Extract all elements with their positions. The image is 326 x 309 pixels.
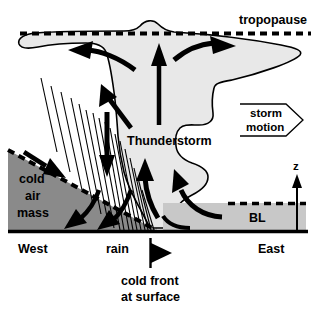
z-axis-label: z [293, 160, 299, 172]
cold-front-caption-line2: at surface [121, 290, 180, 304]
cold-front-symbol-icon [151, 238, 173, 268]
tropopause-label: tropopause [239, 13, 307, 27]
cold-air-label-line2: air [25, 189, 40, 203]
storm-motion-arrow[interactable]: storm motion [240, 104, 303, 136]
cold-air-label-line1: cold [19, 172, 45, 186]
rain-label: rain [106, 242, 129, 256]
z-axis-head [292, 174, 302, 188]
thunderstorm-label: Thunderstorm [127, 134, 212, 148]
west-label: West [18, 242, 48, 256]
cold-front-caption-line1: cold front [121, 274, 179, 288]
thunderstorm-cross-section-diagram: tropopause cold air mass BL [0, 0, 326, 309]
boundary-layer-label: BL [249, 211, 266, 225]
storm-motion-label-line2: motion [246, 121, 284, 133]
cold-front-pip [151, 243, 172, 263]
storm-motion-label-line1: storm [250, 107, 282, 119]
east-label: East [258, 242, 285, 256]
cold-air-label-line3: mass [17, 206, 49, 220]
